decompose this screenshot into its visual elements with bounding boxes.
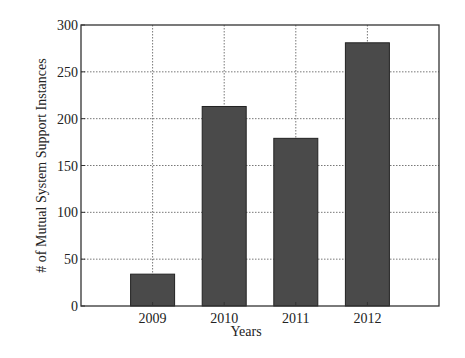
x-tick-label: 2009 <box>139 311 167 326</box>
y-tick-label: 150 <box>57 159 78 174</box>
x-tick-label: 2012 <box>353 311 381 326</box>
y-axis-label: # of Mutual System Support Instances <box>34 58 49 272</box>
y-tick-label: 300 <box>57 18 78 33</box>
x-tick-label: 2011 <box>282 311 309 326</box>
y-tick-label: 200 <box>57 112 78 127</box>
y-tick-label: 250 <box>57 65 78 80</box>
bars <box>131 43 390 306</box>
bar-2012 <box>345 43 389 306</box>
chart-canvas: 050100150200250300 2009201020112012 Year… <box>0 0 465 358</box>
bar-2010 <box>202 106 246 306</box>
y-tick-label: 50 <box>64 252 78 267</box>
bar-chart: 050100150200250300 2009201020112012 Year… <box>0 0 465 358</box>
bar-2009 <box>131 274 175 306</box>
bar-2011 <box>274 138 318 306</box>
y-tick-label: 100 <box>57 205 78 220</box>
x-axis-label: Years <box>230 324 261 339</box>
y-tick-label: 0 <box>71 299 78 314</box>
